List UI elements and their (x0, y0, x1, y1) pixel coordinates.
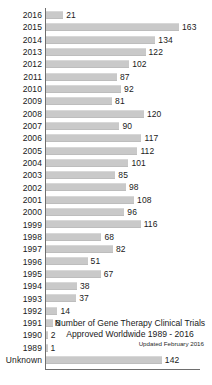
bar-track (46, 233, 101, 241)
bar (46, 11, 63, 19)
bar-track (46, 60, 129, 68)
category-label: 2016 (0, 10, 42, 20)
plot-area: 2016212015163201413420131222012102201187… (0, 8, 212, 370)
bar (46, 23, 179, 31)
bar-row: 2001108 (0, 194, 212, 206)
bar (46, 233, 101, 241)
bar-track (46, 73, 117, 81)
category-label: 2006 (0, 133, 42, 143)
bar (46, 60, 129, 68)
bar (46, 36, 155, 44)
bar-value-label: 37 (79, 293, 89, 303)
bar-track (46, 331, 48, 339)
bar-track (46, 122, 119, 130)
bar-row: 2006117 (0, 132, 212, 144)
bar-track (46, 171, 115, 179)
bar-value-label: 98 (129, 182, 139, 192)
category-label: 1995 (0, 269, 42, 279)
bar (46, 282, 77, 290)
bar-track (46, 344, 48, 352)
bar-track (46, 245, 113, 253)
x-axis-line (45, 369, 200, 370)
bar-value-label: 122 (149, 47, 163, 57)
bar (46, 183, 126, 191)
bar-value-label: 134 (158, 35, 172, 45)
category-label: 1994 (0, 281, 42, 291)
category-label: 1998 (0, 232, 42, 242)
category-label: 2000 (0, 207, 42, 217)
category-label: 1997 (0, 244, 42, 254)
bar (46, 307, 57, 315)
bar-value-label: 96 (127, 207, 137, 217)
bar (46, 294, 76, 302)
bar-row: 199438 (0, 280, 212, 292)
category-label: 2012 (0, 59, 42, 69)
bar-value-label: 51 (91, 256, 101, 266)
bar-value-label: 90 (122, 121, 132, 131)
category-label: 2002 (0, 183, 42, 193)
bar-row: 201187 (0, 71, 212, 83)
bar-value-label: 163 (182, 22, 196, 32)
bar-row: 2013122 (0, 46, 212, 58)
bar-value-label: 108 (137, 195, 151, 205)
bar-track (46, 208, 124, 216)
bar-track (46, 11, 63, 19)
bar (46, 159, 128, 167)
bar (46, 48, 146, 56)
bar (46, 344, 48, 352)
bar-track (46, 282, 77, 290)
category-label: 2004 (0, 158, 42, 168)
bar-row: 200385 (0, 169, 212, 181)
bar-row: 2012102 (0, 58, 212, 70)
bar (46, 110, 144, 118)
bar-track (46, 134, 141, 142)
bar-row: 199337 (0, 292, 212, 304)
bar-value-label: 38 (80, 281, 90, 291)
bar-value-label: 81 (115, 96, 125, 106)
bar-value-label: 82 (116, 244, 126, 254)
bar-value-label: 85 (118, 170, 128, 180)
bar-row: 2005112 (0, 145, 212, 157)
bar-value-label: 112 (140, 146, 154, 156)
bar-row: Unknown142 (0, 354, 212, 366)
bar-track (46, 97, 112, 105)
bar-value-label: 1 (51, 343, 56, 353)
bar (46, 171, 115, 179)
bar-track (46, 270, 101, 278)
bar-track (46, 220, 141, 228)
bar (46, 220, 141, 228)
bar-track (46, 48, 146, 56)
bar-row: 199868 (0, 231, 212, 243)
gene-therapy-trials-bar-chart: 2016212015163201413420131222012102201187… (0, 0, 212, 385)
bar-value-label: 92 (124, 84, 134, 94)
bar-row: 19902 (0, 329, 212, 341)
bar-row: 200981 (0, 95, 212, 107)
bar-row: 199782 (0, 243, 212, 255)
bar-row: 200298 (0, 181, 212, 193)
bar-track (46, 356, 162, 364)
category-label: 2015 (0, 22, 42, 32)
bar-value-label: 68 (104, 232, 114, 242)
bar-value-label: 21 (66, 10, 76, 20)
category-label: 1990 (0, 330, 42, 340)
category-label: 2008 (0, 109, 42, 119)
bar-row: 201621 (0, 9, 212, 21)
bar-value-label: 87 (120, 72, 130, 82)
bar (46, 122, 119, 130)
bar-row: 19918 (0, 317, 212, 329)
category-label: 2003 (0, 170, 42, 180)
bar (46, 331, 48, 339)
bar-track (46, 294, 76, 302)
category-label: 2009 (0, 96, 42, 106)
bar-row: 1999116 (0, 218, 212, 230)
bar (46, 208, 124, 216)
bar-value-label: 117 (144, 133, 158, 143)
bar-row: 199567 (0, 268, 212, 280)
bar-value-label: 14 (60, 306, 70, 316)
bar-track (46, 23, 179, 31)
bar-track (46, 319, 53, 327)
bar (46, 257, 88, 265)
category-label: 1999 (0, 220, 42, 230)
bar (46, 319, 53, 327)
bar-track (46, 159, 128, 167)
